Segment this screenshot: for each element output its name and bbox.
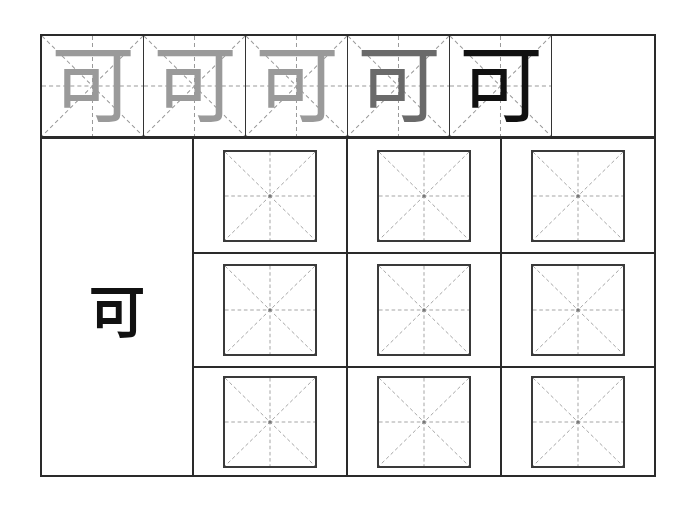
practice-box[interactable]: [377, 264, 471, 356]
mi-grid-guide-icon: [225, 378, 315, 466]
stroke-blank-cell: [552, 36, 654, 136]
practice-cell[interactable]: [194, 368, 348, 475]
mi-grid-guide-icon: [379, 378, 469, 466]
practice-cell[interactable]: [502, 139, 654, 254]
stroke-step-5: 可: [450, 36, 552, 136]
practice-cell[interactable]: [348, 139, 502, 254]
practice-cell[interactable]: [502, 254, 654, 368]
mi-grid-guide-icon: [533, 378, 623, 466]
stroke-char: 可: [246, 36, 347, 136]
mi-grid-guide-icon: [225, 152, 315, 240]
practice-cell[interactable]: [194, 139, 348, 254]
practice-box[interactable]: [531, 376, 625, 468]
stroke-order-row: 可 可 可: [42, 36, 654, 139]
practice-box[interactable]: [531, 264, 625, 356]
mi-grid-guide-icon: [379, 266, 469, 354]
stroke-step-2: 可: [144, 36, 246, 136]
stroke-char: 可: [348, 36, 449, 136]
stroke-step-1: 可: [42, 36, 144, 136]
mi-grid-guide-icon: [379, 152, 469, 240]
practice-box[interactable]: [223, 264, 317, 356]
stroke-step-4: 可: [348, 36, 450, 136]
stroke-char: 可: [450, 36, 551, 136]
practice-cell[interactable]: [502, 368, 654, 475]
model-character-cell: 可: [42, 139, 194, 475]
practice-cell[interactable]: [348, 254, 502, 368]
practice-cell[interactable]: [348, 368, 502, 475]
practice-cell[interactable]: [194, 254, 348, 368]
practice-box[interactable]: [377, 376, 471, 468]
mi-grid-guide-icon: [533, 266, 623, 354]
stroke-char: 可: [42, 36, 143, 136]
practice-box[interactable]: [223, 376, 317, 468]
practice-box[interactable]: [377, 150, 471, 242]
model-character: 可: [89, 267, 145, 348]
mi-grid-guide-icon: [533, 152, 623, 240]
practice-box[interactable]: [223, 150, 317, 242]
practice-sheet: 可 可 可: [40, 34, 656, 477]
mi-grid-guide-icon: [225, 266, 315, 354]
stroke-char: 可: [144, 36, 245, 136]
practice-area: 可: [42, 139, 654, 475]
practice-box[interactable]: [531, 150, 625, 242]
stroke-step-3: 可: [246, 36, 348, 136]
